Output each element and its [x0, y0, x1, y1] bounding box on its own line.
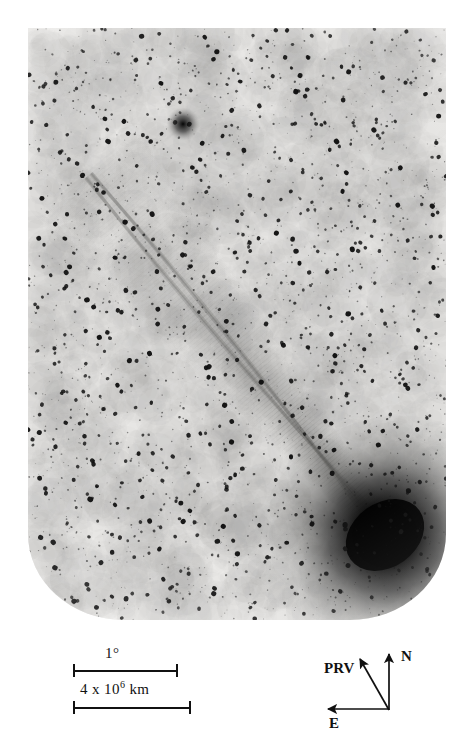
linear-scale-mantissa: 4 x 10	[80, 681, 120, 697]
compass-arrows-icon	[310, 640, 430, 740]
scale-bar-line	[73, 707, 191, 709]
angular-scale-label: 1°	[105, 646, 119, 661]
scale-bar-end-cap-right	[176, 664, 178, 677]
angular-scale-bar-icon	[73, 664, 178, 677]
scale-bar-line	[73, 670, 178, 672]
linear-scale-unit: km	[125, 681, 149, 697]
north-label: N	[401, 649, 412, 664]
linear-scale-label: 4 x 106 km	[80, 682, 149, 697]
astronomical-plate	[28, 28, 446, 620]
linear-scale-bar-icon	[73, 701, 191, 714]
orientation-compass: N E PRV	[310, 640, 430, 740]
prv-label: PRV	[324, 661, 354, 676]
east-label: E	[329, 716, 339, 731]
comet-plate-figure: 1° 4 x 106 km N E PRV	[0, 0, 474, 753]
star-field-canvas	[28, 28, 446, 620]
scale-bar-group: 1° 4 x 106 km	[60, 640, 220, 726]
arrow-up-left-icon	[360, 659, 389, 710]
scale-bar-end-cap-right	[189, 701, 191, 714]
